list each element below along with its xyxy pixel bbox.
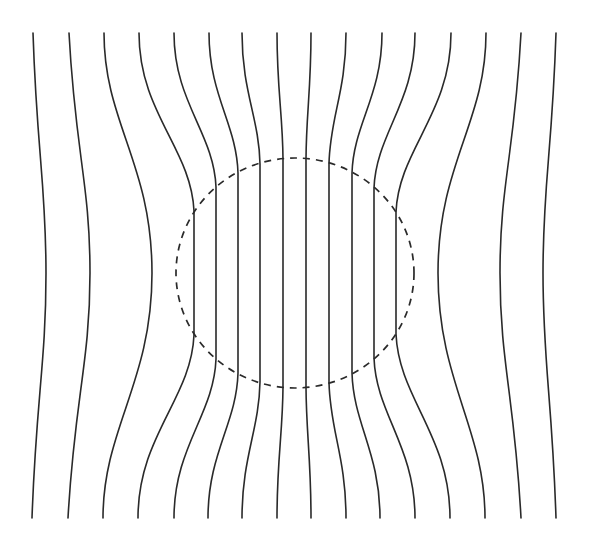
field-line-8 [277, 33, 283, 518]
field-line-3 [103, 33, 152, 518]
field-line-16 [543, 33, 556, 518]
field-line-4 [138, 33, 194, 518]
field-line-9 [306, 33, 311, 518]
field-line-7 [242, 33, 260, 518]
field-lines-diagram [0, 0, 590, 534]
field-line-11 [352, 33, 382, 518]
field-line-2 [68, 33, 90, 518]
field-line-15 [500, 33, 521, 518]
field-line-12 [374, 33, 415, 518]
field-line-5 [174, 33, 216, 518]
field-line-6 [208, 33, 238, 518]
field-lines [32, 33, 556, 518]
field-line-13 [396, 33, 451, 518]
field-line-1 [32, 33, 46, 518]
field-line-10 [329, 33, 346, 518]
dashed-circle-boundary [176, 158, 414, 388]
field-line-14 [438, 33, 486, 518]
